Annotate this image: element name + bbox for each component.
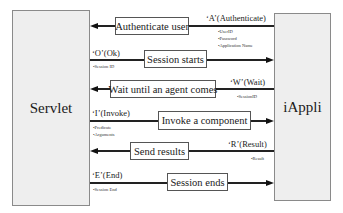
param-item: •UserID [218,28,253,35]
arrow-left-icon [90,148,98,154]
param-item: •Application Name [218,42,253,49]
code-authenticate: ‘A’(Authenticate) [206,13,266,23]
message-authenticate-user: Authenticate user [115,17,189,35]
message-invoke-component: Invoke a component [158,111,251,130]
arrow-right-icon [266,118,274,124]
code-wait: ‘W’(Wait) [230,77,265,87]
iappli-box: iAppli [274,13,331,201]
arrow-left-icon [90,23,98,29]
param-item: •Password [218,35,253,42]
arrow-right-icon [266,57,274,63]
param-item: •Predicate [93,124,115,131]
params-session-starts: •Session ID [93,63,114,70]
param-item: •Arguments [93,131,115,138]
code-end: ‘E’(End) [92,170,122,180]
message-label: Session starts [147,54,204,65]
servlet-box: Servlet [12,10,90,206]
iappli-label: iAppli [283,99,321,116]
param-item: •Session ID [93,63,114,70]
message-label: Wait until an agent comes [109,84,218,95]
code-result: ‘R’(Result) [228,139,267,149]
message-label: Send results [134,146,185,157]
message-send-results: Send results [130,142,189,160]
params-end: •Session End [93,186,117,193]
code-invoke: ‘I’(Invoke) [92,108,130,118]
params-result: •Result [251,155,264,162]
params-wait: •SessionID [237,93,257,100]
message-session-ends: Session ends [167,173,228,191]
param-item: •Result [251,155,264,162]
param-item: •SessionID [237,93,257,100]
params-invoke: •Predicate •Arguments [93,124,115,138]
arrow-left-icon [90,86,98,92]
message-label: Authenticate user [115,21,189,32]
message-session-starts: Session starts [144,50,207,68]
servlet-label: Servlet [30,100,73,117]
param-item: •Session End [93,186,117,193]
message-label: Session ends [171,177,225,188]
code-ok: ‘O’(Ok) [92,48,120,58]
arrow-right-icon [266,180,274,186]
params-authenticate: •UserID •Password •Application Name [218,28,253,49]
message-label: Invoke a component [162,115,248,126]
message-wait-agent: Wait until an agent comes [110,80,216,98]
